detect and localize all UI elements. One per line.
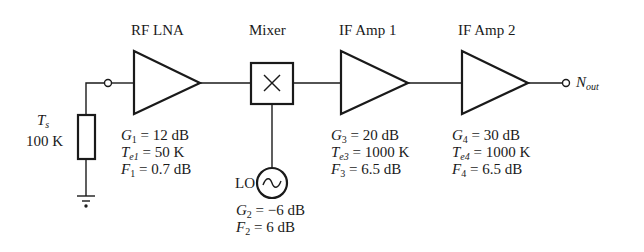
param-f1: F1 = 0.7 dB (121, 161, 191, 178)
label-mixer: Mixer (249, 22, 286, 39)
if-amp2-icon (462, 51, 528, 114)
label-if-amp1: IF Amp 1 (339, 22, 397, 39)
source-resistor (78, 115, 95, 159)
lo-label: LO (235, 175, 255, 192)
param-te3: Te3 = 1000 K (331, 144, 409, 161)
source-temp-symbol: Ts (37, 112, 49, 129)
output-terminal (563, 80, 570, 87)
param-g1: G1 = 12 dB (121, 127, 191, 144)
param-f4: F4 = 6.5 dB (452, 161, 530, 178)
if-amp1-params: G3 = 20 dB Te3 = 1000 K F3 = 6.5 dB (331, 127, 409, 178)
source-wire (86, 83, 104, 115)
param-te1: Te1 = 50 K (121, 144, 191, 161)
param-g4: G4 = 30 dB (452, 127, 530, 144)
label-rf-lna: RF LNA (131, 22, 184, 39)
param-f2: F2 = 6 dB (236, 219, 305, 236)
param-g2: G2 = −6 dB (236, 202, 305, 219)
source-temp-value: 100 K (26, 133, 63, 150)
param-f3: F3 = 6.5 dB (331, 161, 409, 178)
input-terminal (105, 80, 112, 87)
if-amp1-icon (341, 51, 408, 114)
circuit-diagram (0, 0, 644, 252)
param-te4: Te4 = 1000 K (452, 144, 530, 161)
lna-params: G1 = 12 dB Te1 = 50 K F1 = 0.7 dB (121, 127, 191, 178)
lna-amplifier-icon (134, 51, 200, 114)
label-if-amp2: IF Amp 2 (458, 22, 516, 39)
param-g3: G3 = 20 dB (331, 127, 409, 144)
output-noise-label: Nout (576, 74, 599, 91)
if-amp2-params: G4 = 30 dB Te4 = 1000 K F4 = 6.5 dB (452, 127, 530, 178)
mixer-params: G2 = −6 dB F2 = 6 dB (236, 202, 305, 236)
